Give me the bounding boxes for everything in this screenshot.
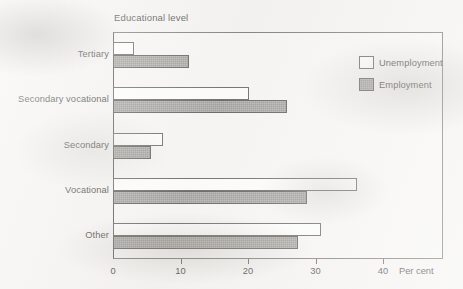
- x-tick-label-0: 0: [110, 266, 115, 276]
- bar-unemployment-vocational: [113, 178, 357, 191]
- x-tick-label-10: 10: [175, 266, 185, 276]
- category-label-vocational: Vocational: [1, 185, 109, 195]
- bar-employment-tertiary: [113, 55, 189, 68]
- x-tick-mark-10: [181, 259, 182, 264]
- bar-unemployment-tertiary: [113, 42, 134, 55]
- category-label-other: Other: [1, 230, 109, 240]
- category-label-secondary-vocational: Secondary vocational: [1, 94, 109, 104]
- x-tick-label-20: 20: [243, 266, 253, 276]
- bar-unemployment-other: [113, 223, 321, 236]
- y-axis-category-labels: TertiarySecondary vocationalSecondaryVoc…: [0, 32, 109, 259]
- legend-label-employment: Employment: [379, 80, 432, 90]
- x-tick-mark-30: [316, 259, 317, 264]
- x-tick-mark-40: [383, 259, 384, 264]
- bar-employment-other: [113, 236, 298, 249]
- bar-employment-secondary-vocational: [113, 100, 287, 113]
- bar-chart: Educational level TertiarySecondary voca…: [0, 0, 463, 289]
- chart-legend: Unemployment Employment: [359, 56, 439, 100]
- legend-item-unemployment: Unemployment: [359, 56, 439, 69]
- legend-swatch-employment: [359, 78, 374, 91]
- x-tick-label-40: 40: [378, 266, 388, 276]
- legend-label-unemployment: Unemployment: [379, 58, 443, 68]
- x-axis-unit-label: Per cent: [399, 266, 434, 276]
- category-label-secondary: Secondary: [1, 140, 109, 150]
- legend-item-employment: Employment: [359, 78, 439, 91]
- bar-unemployment-secondary-vocational: [113, 87, 249, 100]
- bar-unemployment-secondary: [113, 133, 163, 146]
- category-label-tertiary: Tertiary: [1, 49, 109, 59]
- legend-swatch-unemployment: [359, 56, 374, 69]
- x-tick-mark-20: [248, 259, 249, 264]
- x-tick-label-30: 30: [310, 266, 320, 276]
- bar-employment-vocational: [113, 191, 307, 204]
- bar-employment-secondary: [113, 146, 151, 159]
- chart-title: Educational level: [114, 12, 188, 23]
